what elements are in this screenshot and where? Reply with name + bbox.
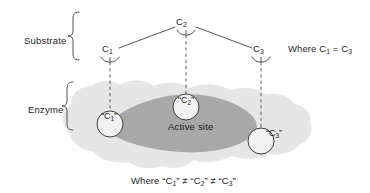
caption-prefix: Where “C [131,175,172,186]
enzyme-site-c2-letter: C [181,95,188,105]
caption-subscript-2: 2 [201,180,205,187]
caption-subscript-3: 3 [229,180,233,187]
enzyme-site-c1-subscript: 1 [111,115,115,122]
substrate-node-c3: C3 [253,44,264,54]
enzyme-site-c2-subscript: 2 [188,99,192,106]
enzyme-site-label-c3: “C3” [266,129,282,138]
bond-c2-to-c1 [119,27,175,48]
substrate-node-c3-subscript: 3 [260,48,264,55]
enzyme-site-c1-close-quote: ” [114,111,117,121]
substrate-node-c2-letter: C [176,16,183,27]
active-site-label: Active site [168,122,214,132]
substrate-node-c1-letter: C [102,43,109,54]
substrate-node-c1-subscript: 1 [109,48,113,55]
enzyme-site-c1-letter: C [104,111,111,121]
note-prefix: Where C [288,43,326,54]
note-subscript-1: 1 [326,48,330,55]
note-subscript-2: 3 [348,48,352,55]
enzyme-site-label-c2: “C2” [178,96,194,105]
enzyme-site-c3-subscript: 3 [276,132,280,139]
caption-suffix: ” [233,175,236,186]
enzyme-site-c3-letter: C [269,128,276,138]
substrate-equality-note: Where C1 = C3 [288,44,352,54]
enzyme-site-c2-close-quote: ” [191,95,194,105]
enzyme-site-label-c1: “C1” [101,112,117,121]
figure-caption: Where “C1” ≠ “C2” ≠ “C3” [131,176,236,186]
substrate-node-c2: C2 [176,17,187,27]
substrate-bracket-label: Substrate [24,36,66,46]
substrate-node-c2-subscript: 2 [183,21,187,28]
note-operator: = C [330,43,348,54]
caption-subscript-1: 1 [172,180,176,187]
enzyme-site-c3-close-quote: ” [279,128,282,138]
substrate-bracket [68,12,79,60]
caption-mid-1: ” ≠ “C [176,175,200,186]
substrate-node-c1: C1 [102,44,113,54]
enzyme-bracket-label: Enzyme [28,105,64,115]
caption-mid-2: ” ≠ “C [205,175,229,186]
enzyme-substrate-diagram: Substrate Enzyme C1 C2 C3 “C1” “C2” “C3”… [0,0,370,193]
substrate-node-c3-letter: C [253,43,260,54]
bond-c2-to-c3 [196,27,252,48]
